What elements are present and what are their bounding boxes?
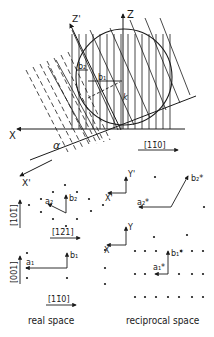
x-prime-axis-label: X': [22, 178, 31, 188]
real-a2-label: a₂: [45, 197, 53, 206]
real-b2-label: b₂: [69, 194, 77, 203]
recip-b2-label: b₂*: [191, 174, 203, 183]
vertical-rods: [72, 34, 170, 129]
tilted-rods: [48, 18, 190, 142]
reciprocal-space-caption: reciprocal space: [126, 315, 200, 326]
b1-label-top: b₁: [98, 73, 106, 82]
real-upper-axis-label: [101̄]: [10, 204, 19, 226]
real-b1-label: b₁: [70, 251, 78, 260]
recip-upper-points: [102, 176, 205, 208]
recip-upper-y-label: Y': [127, 170, 135, 179]
real-space-upper: [28, 184, 92, 227]
recip-a2-label: a₂*: [137, 198, 149, 207]
k-label: k: [123, 93, 128, 102]
recip-a1-label: a₁*: [153, 263, 165, 272]
real-upper-direction-label: [12̄1]: [52, 228, 74, 237]
recip-b2-vector: [171, 176, 188, 207]
x-prime-axis: [20, 160, 52, 176]
direction-label-top: [11̄0]: [144, 141, 166, 150]
ewald-diagram: [17, 14, 196, 176]
alpha-label: α: [53, 139, 61, 152]
real-lower-axis-label: [001]: [10, 261, 19, 283]
b2-label-top: b₂: [78, 62, 86, 71]
real-lower-direction-label: [11̄0]: [48, 295, 70, 304]
z-axis-label: Z: [127, 9, 134, 20]
real-space-caption: real space: [28, 315, 75, 326]
recip-lower-y-label: Y: [127, 223, 133, 232]
recip-b1-label: b₁*: [171, 249, 183, 258]
recip-upper-x-label: X': [105, 194, 113, 203]
z-prime-axis: [70, 24, 121, 130]
recip-lower-x-label: X: [104, 246, 110, 255]
figure-canvas: Z Z' X X' α k b₁ b₂ [11̄0] a₂ b₂ [101̄] …: [0, 0, 214, 337]
x-axis-label: X: [9, 130, 16, 141]
real-a1-label: a₁: [26, 258, 34, 267]
z-prime-axis-label: Z': [72, 14, 81, 24]
